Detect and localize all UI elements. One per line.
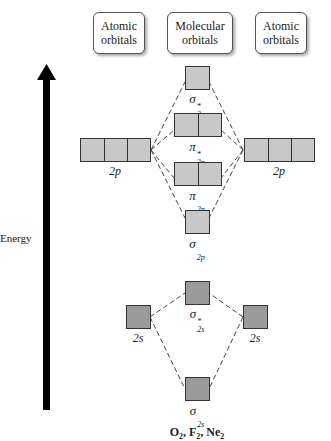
orbital-box [186,378,209,400]
mo-sigma-star-2p [185,66,210,90]
orbital-box [175,114,198,136]
label-2p-left: 2p [109,164,121,179]
mo-sigma-2p [185,210,210,234]
label-sigma-star-2s: σ*2s [190,306,205,334]
orbital-box [198,163,221,185]
label-2s-right: 2s [250,331,261,346]
mo-pi-2p [174,162,222,186]
orbital-box [186,211,209,233]
molecule-caption: O2, F2, Ne2 [170,425,225,441]
atomic-orbital-2s-left [126,305,151,329]
correlation-lines [0,0,331,441]
mo-pi-star-2p [174,113,222,137]
orbital-box [81,139,104,161]
orbital-box [104,139,127,161]
mo-sigma-star-2s [185,281,210,305]
orbital-box [186,67,209,89]
label-sigma-2p: σ2p [189,236,204,262]
orbital-box [175,163,198,185]
orbital-box [127,139,150,161]
label-2s-left: 2s [133,331,144,346]
energy-axis-label: Energy [0,232,32,244]
orbital-box [245,139,268,161]
atomic-orbital-2p-right [244,138,315,162]
label-2p-right: 2p [273,164,285,179]
orbital-box [198,114,221,136]
energy-arrow-icon [37,64,56,410]
orbital-box [186,282,209,304]
orbital-box [291,139,314,161]
atomic-orbital-2s-right [243,305,268,329]
orbital-box [127,306,150,328]
orbital-box [244,306,267,328]
orbital-box [268,139,291,161]
atomic-orbital-2p-left [80,138,151,162]
mo-sigma-2s [185,377,210,401]
